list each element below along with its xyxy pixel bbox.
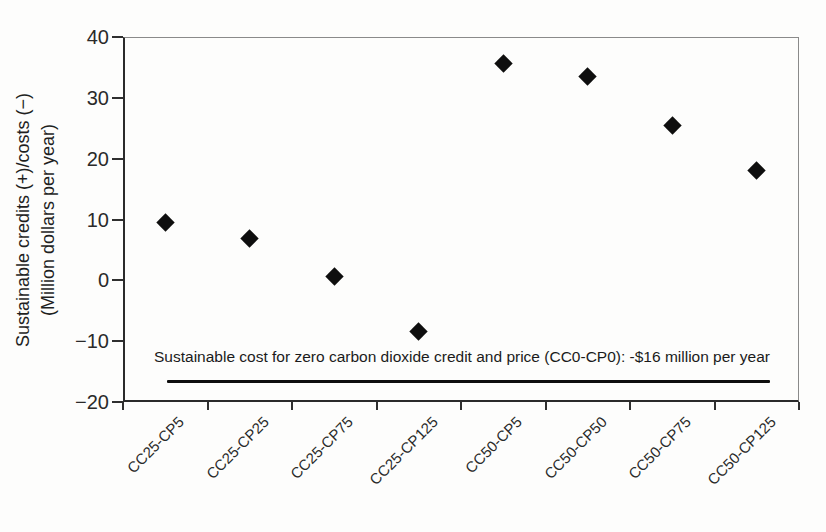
y-tick-mark xyxy=(112,158,123,160)
x-tick-mark xyxy=(376,402,378,410)
y-axis-title-line1: Sustainable credits (+)/costs (−) xyxy=(11,93,36,347)
reference-line xyxy=(167,380,770,383)
y-axis-title-line2: (Million dollars per year) xyxy=(36,93,61,347)
chart: Sustainable credits (+)/costs (−) (Milli… xyxy=(0,0,826,532)
y-tick-mark xyxy=(112,219,123,221)
x-tick-mark xyxy=(629,402,631,410)
y-tick-mark xyxy=(112,36,123,38)
x-tick-mark xyxy=(545,402,547,410)
y-tick-label: 20 xyxy=(59,146,109,172)
x-tick-mark xyxy=(798,402,800,410)
y-tick-label: 10 xyxy=(59,207,109,233)
x-tick-mark xyxy=(291,402,293,410)
y-tick-label: −20 xyxy=(59,389,109,415)
plot-area: Sustainable cost for zero carbon dioxide… xyxy=(123,37,799,402)
x-tick-mark xyxy=(207,402,209,410)
x-tick-mark xyxy=(122,402,124,410)
y-tick-mark xyxy=(112,279,123,281)
annotation-text: Sustainable cost for zero carbon dioxide… xyxy=(131,348,793,366)
x-tick-mark xyxy=(460,402,462,410)
y-tick-mark xyxy=(112,97,123,99)
y-tick-mark xyxy=(112,340,123,342)
y-tick-label: 0 xyxy=(59,267,109,293)
y-tick-label: −10 xyxy=(59,328,109,354)
y-tick-label: 40 xyxy=(59,24,109,50)
y-tick-label: 30 xyxy=(59,85,109,111)
y-axis-title: Sustainable credits (+)/costs (−) (Milli… xyxy=(11,93,61,347)
x-tick-mark xyxy=(714,402,716,410)
